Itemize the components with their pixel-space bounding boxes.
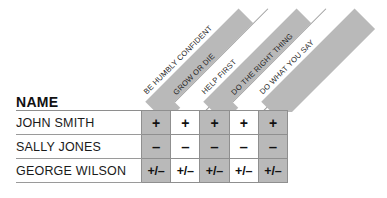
mark-cell[interactable]: –	[141, 135, 170, 159]
table-header: NAME	[16, 88, 288, 111]
mark-cell[interactable]: +	[229, 111, 258, 135]
table-row[interactable]: JOHN SMITH + + + + +	[16, 111, 288, 135]
table-header-row: NAME	[16, 88, 288, 111]
mark-cell[interactable]: –	[229, 135, 258, 159]
mark-cell[interactable]: –	[200, 135, 229, 159]
table-row[interactable]: SALLY JONES – – – – –	[16, 135, 288, 159]
row-name-george-wilson: GEORGE WILSON	[16, 159, 141, 183]
mark-cell[interactable]: +/–	[258, 159, 287, 183]
mark-cell[interactable]: +	[200, 111, 229, 135]
header-spacer-cell	[171, 88, 200, 111]
mark-cell[interactable]: +/–	[171, 159, 200, 183]
header-spacer-cell	[229, 88, 258, 111]
table-body: JOHN SMITH + + + + + SALLY JONES – – – –…	[16, 111, 288, 183]
scorecard-table: NAME JOHN SMITH + + + + + SALLY JONES – …	[16, 88, 288, 183]
values-scorecard-matrix: BE HUMBLY CONFIDENT GROW OR DIE HELP FIR…	[0, 0, 387, 198]
mark-cell[interactable]: +/–	[141, 159, 170, 183]
name-column-header: NAME	[16, 88, 141, 111]
table-row[interactable]: GEORGE WILSON +/– +/– +/– +/– +/–	[16, 159, 288, 183]
mark-cell[interactable]: +/–	[200, 159, 229, 183]
mark-cell[interactable]: +	[258, 111, 287, 135]
mark-cell[interactable]: –	[171, 135, 200, 159]
header-spacer-cell	[200, 88, 229, 111]
header-spacer-cell	[141, 88, 170, 111]
mark-cell[interactable]: +/–	[229, 159, 258, 183]
mark-cell[interactable]: –	[258, 135, 287, 159]
mark-cell[interactable]: +	[141, 111, 170, 135]
header-spacer-cell	[258, 88, 287, 111]
row-name-john-smith: JOHN SMITH	[16, 111, 141, 135]
mark-cell[interactable]: +	[171, 111, 200, 135]
row-name-sally-jones: SALLY JONES	[16, 135, 141, 159]
